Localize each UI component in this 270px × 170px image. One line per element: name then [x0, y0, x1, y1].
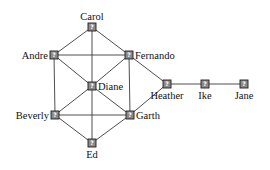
unknown-person-icon: ? — [88, 23, 96, 31]
node-ike[interactable]: ?Ike — [198, 80, 212, 101]
edge-andre-beverly — [54, 55, 55, 115]
node-label: Andre — [22, 50, 49, 61]
edge-layer — [54, 27, 244, 143]
node-glyph: ? — [127, 51, 131, 58]
node-garth[interactable]: ?Garth — [126, 110, 161, 121]
node-label: Fernando — [135, 50, 175, 61]
edge-beverly-ed — [55, 115, 92, 143]
node-glyph: ? — [53, 111, 57, 118]
node-fernando[interactable]: ?Fernando — [125, 50, 175, 61]
node-andre[interactable]: ?Andre — [22, 50, 58, 61]
edge-fernando-garth — [129, 55, 130, 115]
unknown-person-icon: ? — [50, 51, 58, 59]
edge-andre-carol — [54, 27, 92, 55]
node-layer: ?Carol?Andre?Fernando?Diane?Beverly?Gart… — [16, 11, 254, 160]
node-glyph: ? — [203, 80, 207, 87]
node-label: Heather — [150, 90, 184, 101]
node-carol[interactable]: ?Carol — [80, 11, 103, 31]
node-beverly[interactable]: ?Beverly — [16, 110, 59, 121]
unknown-person-icon: ? — [163, 80, 171, 88]
node-label: Carol — [80, 11, 103, 22]
edge-andre-diane — [54, 55, 92, 86]
node-diane[interactable]: ?Diane — [88, 81, 123, 92]
node-label: Ed — [86, 149, 98, 160]
edge-beverly-diane — [55, 86, 92, 115]
node-glyph: ? — [242, 80, 246, 87]
node-heather[interactable]: ?Heather — [150, 80, 184, 101]
node-ed[interactable]: ?Ed — [86, 139, 98, 160]
node-glyph: ? — [52, 51, 56, 58]
edge-carol-fernando — [92, 27, 129, 55]
node-glyph: ? — [90, 82, 94, 89]
unknown-person-icon: ? — [51, 111, 59, 119]
node-glyph: ? — [128, 111, 132, 118]
edge-ed-garth — [92, 115, 130, 143]
node-label: Garth — [136, 110, 161, 121]
unknown-person-icon: ? — [125, 51, 133, 59]
node-label: Diane — [98, 81, 123, 92]
node-label: Jane — [235, 90, 254, 101]
unknown-person-icon: ? — [240, 80, 248, 88]
node-glyph: ? — [90, 139, 94, 146]
network-graph: ?Carol?Andre?Fernando?Diane?Beverly?Gart… — [0, 0, 270, 170]
node-glyph: ? — [165, 80, 169, 87]
unknown-person-icon: ? — [201, 80, 209, 88]
unknown-person-icon: ? — [88, 82, 96, 90]
node-label: Ike — [198, 90, 212, 101]
unknown-person-icon: ? — [88, 139, 96, 147]
node-label: Beverly — [16, 110, 50, 121]
node-glyph: ? — [90, 23, 94, 30]
unknown-person-icon: ? — [126, 111, 134, 119]
node-jane[interactable]: ?Jane — [235, 80, 254, 101]
